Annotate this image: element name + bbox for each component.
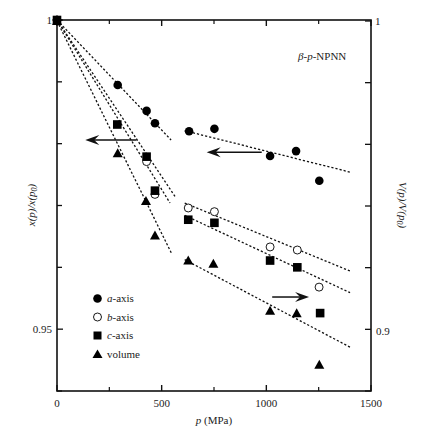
data-point-a-axis — [292, 147, 301, 156]
data-point-c-axis — [151, 186, 160, 195]
data-point-c-axis — [184, 215, 193, 224]
x-axis-title: p (MPa) — [195, 414, 233, 427]
data-point-b-axis — [293, 246, 301, 254]
arrow-left-icon — [85, 135, 136, 145]
legend-label-volume: volume — [107, 348, 140, 360]
data-point-a-axis — [210, 125, 219, 134]
y-left-tick-label-095: 0.95 — [33, 323, 53, 335]
data-point-c-axis — [316, 309, 325, 318]
data-point-a-axis — [266, 152, 275, 161]
data-points — [52, 16, 324, 369]
fit-line-c-axis — [185, 215, 350, 292]
y-right-tick-label-1: 1 — [375, 15, 381, 27]
y-right-axis-title: V(p)/V(p0) — [395, 182, 409, 228]
chart-canvas: 0 500 1000 1500 1 0.95 1 0.9 x(p)/x(p0) … — [0, 0, 426, 442]
compound-annotation: β-p-NPNN — [297, 50, 346, 62]
data-point-volume — [141, 196, 151, 205]
data-point-volume — [292, 308, 302, 317]
data-point-b-axis — [315, 283, 323, 291]
data-point-c-axis — [113, 120, 122, 129]
data-point-volume — [208, 259, 218, 268]
legend-label-b-axis: b-axis — [107, 311, 134, 323]
x-tick-label-1000: 1000 — [255, 397, 278, 409]
data-point-c-axis — [210, 219, 219, 228]
legend-label-a-axis: a-axis — [107, 292, 134, 304]
data-point-a-axis — [113, 81, 122, 90]
y-left-axis-title: x(p)/x(p0) — [25, 183, 39, 227]
x-tick-label-0: 0 — [54, 397, 60, 409]
data-point-b-axis — [184, 204, 192, 212]
data-point-volume — [314, 360, 324, 369]
arrow-right-icon — [272, 292, 309, 302]
legend-marker-volume — [93, 350, 103, 359]
legend: a-axis b-axis c-axis volume — [93, 292, 141, 360]
fit-line-volume — [57, 21, 172, 254]
legend-marker-a-axis — [93, 294, 102, 303]
legend-marker-c-axis — [94, 332, 102, 340]
plot-border — [57, 20, 371, 391]
x-tick-label-1500: 1500 — [360, 397, 383, 409]
fit-line-volume — [185, 260, 350, 348]
legend-marker-b-axis — [94, 313, 102, 321]
data-point-b-axis — [210, 208, 218, 216]
x-tick-label-500: 500 — [153, 397, 170, 409]
fit-line-c-axis — [57, 20, 170, 203]
legend-label-c-axis: c-axis — [107, 329, 133, 341]
data-point-c-axis — [293, 263, 302, 272]
plot-frame — [57, 20, 371, 391]
data-point-b-axis — [266, 243, 274, 251]
data-point-a-axis — [142, 107, 151, 116]
data-point-a-axis — [151, 119, 160, 128]
data-point-a-axis — [185, 127, 194, 136]
axis-arrows — [85, 135, 309, 302]
axis-ticks — [57, 20, 371, 391]
data-point-volume — [150, 231, 160, 240]
data-point-a-axis — [315, 176, 324, 185]
data-point-volume — [113, 148, 123, 157]
y-left-tick-label-1: 1 — [47, 14, 53, 26]
data-point-c-axis — [266, 256, 275, 265]
y-right-tick-label-09: 0.9 — [376, 325, 390, 337]
data-point-c-axis — [142, 152, 151, 161]
fit-line-b-axis — [57, 20, 176, 197]
arrow-left-icon — [207, 147, 262, 157]
